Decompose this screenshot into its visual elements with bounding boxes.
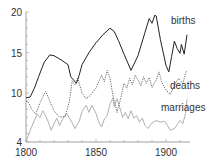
x-minor-ticks: [26, 139, 180, 142]
y-tick-label-10: 10: [11, 88, 23, 99]
axes: 20 15 10 4 1800 1850 1900: [11, 7, 190, 158]
y-tick-label-20: 20: [11, 7, 23, 18]
chart-svg: 20 15 10 4 1800 1850 1900 births deaths …: [0, 0, 215, 163]
births-label: births: [171, 15, 195, 26]
y-tick-label-15: 15: [11, 48, 23, 59]
marriages-label: marriages: [161, 102, 205, 113]
births-line: [26, 15, 187, 98]
x-tick-label-1850: 1850: [85, 147, 108, 158]
chart: 20 15 10 4 1800 1850 1900 births deaths …: [0, 0, 215, 163]
x-tick-label-1800: 1800: [15, 147, 38, 158]
deaths-label: deaths: [170, 80, 200, 91]
y-minor-ticks: [26, 12, 29, 142]
x-tick-label-1900: 1900: [155, 147, 178, 158]
